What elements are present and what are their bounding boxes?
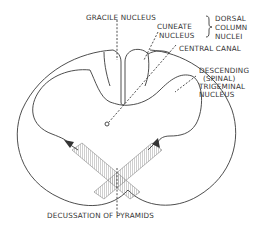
- label-cuneate-line2: NUCLEUS: [159, 31, 195, 40]
- label-cuneate-line1: CUNEATE: [157, 22, 192, 31]
- label-dorsal-line1: DORSAL: [215, 14, 246, 23]
- label-central-canal: CENTRAL CANAL: [179, 44, 241, 53]
- gracile-nucleus-outline: [104, 52, 110, 86]
- label-dorsal-line2: COLUMN: [215, 23, 247, 32]
- central-canal: [105, 122, 109, 126]
- pyramidal-tracts: [64, 138, 162, 199]
- dorsal-column-brace: [206, 16, 212, 37]
- central-canal-leader: [109, 45, 176, 122]
- label-decussation: DECUSSATION OF PYRAMIDS: [47, 211, 154, 220]
- dorsal-median-sulcus: [113, 50, 133, 105]
- label-trigeminal-line4: NUCLEUS: [199, 90, 235, 99]
- trigeminal-leader: [175, 76, 196, 92]
- label-gracile-nucleus: GRACILE NUCLEUS: [86, 13, 156, 22]
- label-dorsal-line3: NUCLEI: [215, 32, 243, 41]
- cuneate-leader: [144, 32, 158, 60]
- left-grey-inner: [90, 70, 130, 105]
- right-grey-matter: [130, 75, 202, 142]
- medulla-diagram: GRACILE NUCLEUS CUNEATE NUCLEUS DORSAL C…: [0, 0, 261, 230]
